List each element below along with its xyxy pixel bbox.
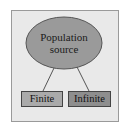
connector-finite [43,68,54,91]
root-label-line2: source [26,43,102,55]
root-label-line1: Population [26,31,102,43]
population-source-label: Population source [26,31,102,55]
finite-label: Finite [30,93,55,104]
finite-node: Finite [21,91,63,107]
connector-infinite [77,67,89,91]
infinite-node: Infinite [68,91,111,107]
diagram-connectors [0,0,125,129]
infinite-label: Infinite [74,93,105,104]
